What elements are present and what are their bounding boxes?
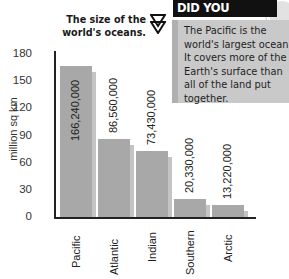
y-axis-line: [54, 51, 56, 218]
did-you-know-heading: DID YOU KNOW?: [173, 0, 277, 17]
bar-indian: [136, 151, 168, 217]
chart-title-line2: world's oceans.: [36, 26, 146, 39]
y-tick-label: 90: [6, 129, 32, 141]
y-tick-label: 120: [6, 101, 32, 113]
chart-title: The size of the world's oceans.: [36, 13, 146, 39]
bar-southern: [174, 199, 206, 217]
chart-title-line1: The size of the: [36, 13, 146, 26]
bar-value-label: 166,240,000: [69, 80, 81, 141]
y-tick-label: 0: [6, 210, 32, 222]
y-tick-label: 180: [6, 47, 32, 59]
bar-value-label: 86,560,000: [107, 78, 119, 133]
y-tick-label: 60: [6, 156, 32, 168]
bar-value-label: 73,430,000: [145, 89, 157, 144]
x-tick-label: Arctic: [222, 235, 234, 263]
double-triangle-icon: [150, 14, 166, 34]
did-you-know-box: The Pacific is the world's largest ocean…: [172, 20, 289, 103]
did-you-know-text: The Pacific is the world's largest ocean…: [184, 24, 289, 105]
y-tick-label: 150: [6, 74, 32, 86]
y-tick-label: 30: [6, 183, 32, 195]
callout-edge: [172, 20, 178, 103]
x-tick-label: Southern: [184, 230, 196, 275]
x-tick-label: Indian: [146, 232, 158, 262]
bar-value-label: 20,330,000: [183, 138, 195, 193]
bar-arctic: [212, 205, 244, 217]
x-tick-label: Pacific: [70, 236, 82, 268]
bar-atlantic: [98, 139, 130, 217]
x-axis-line: [54, 217, 256, 219]
x-tick-label: Atlantic: [108, 239, 120, 275]
bar-value-label: 13,220,000: [221, 144, 233, 199]
